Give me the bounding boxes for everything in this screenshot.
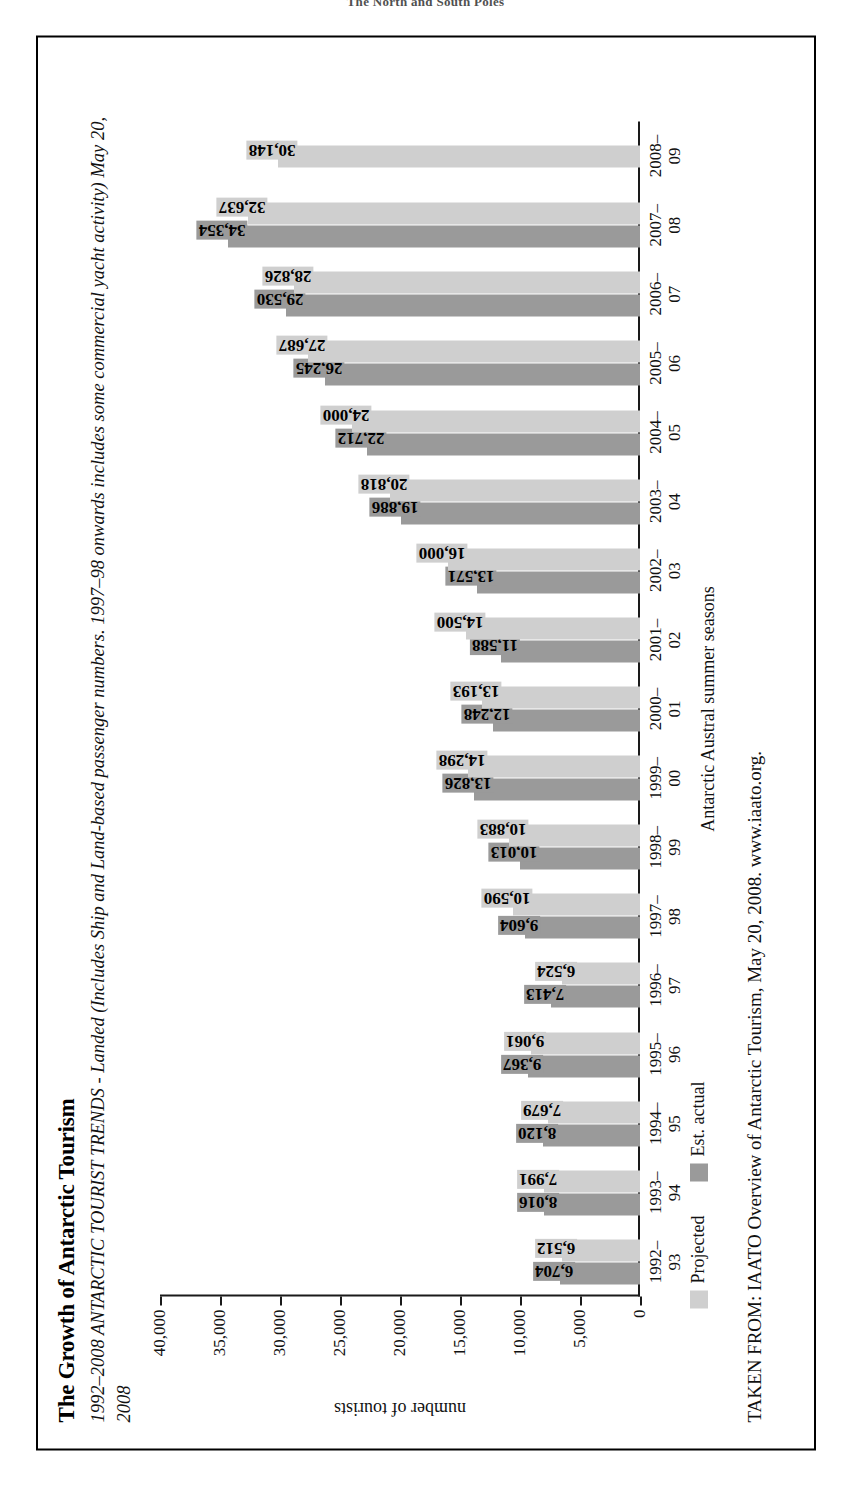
bar-value-label: 7,991 <box>516 1170 558 1189</box>
x-axis-category-label: 1994–95 <box>646 1089 684 1158</box>
y-axis-tick-label: 40,000 <box>150 1310 170 1357</box>
y-axis-title: number of tourists <box>334 1398 466 1419</box>
x-axis-category-label: 1996–97 <box>646 951 684 1020</box>
bar-value-label: 34,354 <box>196 221 247 240</box>
bar-value-label: 9,061 <box>504 1031 546 1050</box>
y-axis-tick <box>280 1297 282 1306</box>
x-axis-category-label: 2003–04 <box>646 467 684 536</box>
bar-projected: 30,148 <box>278 145 640 167</box>
y-axis-tick <box>400 1297 402 1306</box>
bar-group: 26,24527,687 <box>160 329 640 398</box>
bar-projected: 16,000 <box>448 548 640 570</box>
chart-legend: Projected Est. actual <box>688 1056 709 1309</box>
x-axis-category-label: 2006–07 <box>646 260 684 329</box>
bar-value-label: 8,016 <box>516 1193 558 1212</box>
bar-value-label: 9,367 <box>500 1054 542 1073</box>
x-axis-category-label: 1993–94 <box>646 1158 684 1227</box>
plot-area: number of tourists 05,00010,00015,00020,… <box>160 122 640 1297</box>
bar-group: 30,148 <box>160 122 640 191</box>
bar-group: 9,60410,590 <box>160 882 640 951</box>
bar-projected: 7,679 <box>547 1101 639 1123</box>
x-axis-category-label: 2002–03 <box>646 536 684 605</box>
bar-value-label: 10,590 <box>481 889 532 908</box>
bar-actual: 13,571 <box>477 571 640 593</box>
x-axis-category-label: 2008–09 <box>646 122 684 191</box>
bar-projected: 6,512 <box>561 1239 639 1261</box>
rotated-figure-container: The Growth of Antarctic Tourism 1992–200… <box>36 36 816 1451</box>
bar-projected: 7,991 <box>544 1170 640 1192</box>
bar-group: 10,01310,883 <box>160 813 640 882</box>
bar-actual: 13,826 <box>474 779 640 801</box>
bar-projected: 28,826 <box>294 272 640 294</box>
bar-value-label: 30,148 <box>246 140 297 159</box>
bar-value-label: 27,687 <box>276 336 327 355</box>
bar-actual: 19,886 <box>401 502 640 524</box>
y-axis-tick <box>160 1297 162 1306</box>
bar-group: 11,58814,500 <box>160 605 640 674</box>
figure-title: The Growth of Antarctic Tourism <box>54 1099 80 1423</box>
x-axis-category-label: 1999–00 <box>646 744 684 813</box>
y-axis-tick-label: 35,000 <box>210 1310 230 1357</box>
y-axis-tick <box>220 1297 222 1306</box>
bar-actual: 34,354 <box>227 226 639 248</box>
bar-value-label: 20,818 <box>358 474 409 493</box>
y-axis-tick <box>640 1297 642 1306</box>
bar-value-label: 7,413 <box>523 985 565 1004</box>
bar-actual: 7,413 <box>551 986 640 1008</box>
bar-value-label: 16,000 <box>416 543 467 562</box>
bar-value-label: 8,120 <box>515 1124 557 1143</box>
bar-projected: 9,061 <box>531 1032 640 1054</box>
y-axis-tick <box>580 1297 582 1306</box>
bar-value-label: 13,193 <box>450 682 501 701</box>
bar-value-label: 14,298 <box>437 751 488 770</box>
bar-group: 8,1207,679 <box>160 1089 640 1158</box>
bar-projected: 14,500 <box>466 617 640 639</box>
x-axis-category-label: 1995–96 <box>646 1020 684 1089</box>
bar-group: 34,35432,637 <box>160 191 640 260</box>
bar-actual: 8,120 <box>542 1124 639 1146</box>
bar-value-label: 10,883 <box>478 820 529 839</box>
bar-group: 13,82614,298 <box>160 744 640 813</box>
bar-value-label: 6,524 <box>534 962 576 981</box>
bar-projected: 32,637 <box>248 203 640 225</box>
bar-group: 12,24813,193 <box>160 674 640 743</box>
y-axis-tick-label: 10,000 <box>510 1310 530 1357</box>
bar-projected: 6,524 <box>561 963 639 985</box>
bar-value-label: 6,512 <box>534 1239 576 1258</box>
bar-group: 19,88620,818 <box>160 467 640 536</box>
bar-projected: 20,818 <box>390 479 640 501</box>
bar-projected: 13,193 <box>481 687 639 709</box>
bar-value-label: 9,604 <box>497 916 539 935</box>
x-axis-category-label: 2000–01 <box>646 674 684 743</box>
bar-projected: 24,000 <box>352 410 640 432</box>
bar-actual: 11,588 <box>500 640 639 662</box>
legend-item-projected: Projected <box>688 1216 709 1309</box>
bar-value-label: 6,704 <box>532 1262 574 1281</box>
y-axis-tick-label: 25,000 <box>330 1310 350 1357</box>
bar-actual: 29,530 <box>285 295 639 317</box>
bar-value-label: 7,679 <box>520 1101 562 1120</box>
legend-label-projected: Projected <box>688 1216 709 1284</box>
page-running-header: The North and South Poles <box>0 0 851 10</box>
bar-actual: 26,245 <box>325 364 640 386</box>
legend-item-actual: Est. actual <box>688 1082 709 1182</box>
bar-value-label: 28,826 <box>262 267 313 286</box>
bar-actual: 9,367 <box>527 1055 639 1077</box>
figure-subtitle: 1992–2008 ANTARCTIC TOURIST TRENDS - Lan… <box>86 93 137 1423</box>
legend-swatch-projected-icon <box>689 1291 707 1309</box>
legend-swatch-actual-icon <box>689 1164 707 1182</box>
bar-value-label: 32,637 <box>216 198 267 217</box>
figure-border-box: The Growth of Antarctic Tourism 1992–200… <box>36 36 816 1451</box>
y-axis-tick-label: 15,000 <box>450 1310 470 1357</box>
bar-group: 8,0167,991 <box>160 1158 640 1227</box>
y-axis-tick-label: 30,000 <box>270 1310 290 1357</box>
bar-projected: 14,298 <box>468 756 640 778</box>
bar-group: 13,57116,000 <box>160 536 640 605</box>
x-axis-category-label: 1992–93 <box>646 1227 684 1296</box>
bar-actual: 12,248 <box>493 710 640 732</box>
x-axis-category-label: 2004–05 <box>646 398 684 467</box>
bar-group: 6,7046,512 <box>160 1227 640 1296</box>
bar-actual: 10,013 <box>519 848 639 870</box>
bar-actual: 8,016 <box>543 1193 639 1215</box>
x-axis-category-label: 1998–99 <box>646 813 684 882</box>
